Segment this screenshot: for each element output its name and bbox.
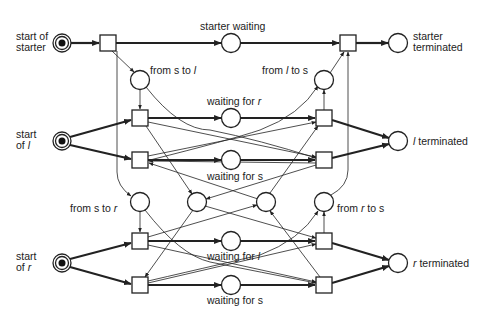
place-l-terminated xyxy=(389,132,408,151)
label-l-terminated: l terminated xyxy=(413,135,468,147)
label-waiting-for-s-bottom: waiting for s xyxy=(206,294,263,306)
place-starter-terminated xyxy=(389,34,408,53)
place-start-of-r xyxy=(53,254,71,272)
token-icon xyxy=(59,260,66,267)
place-inner-right xyxy=(257,193,276,212)
place-waiting-for-r xyxy=(222,109,241,128)
transition-l2-right xyxy=(316,152,332,168)
place-inner-left xyxy=(188,193,207,212)
place-from-s-to-r xyxy=(131,193,150,212)
transition-end-starter xyxy=(340,35,356,51)
transition-start-starter xyxy=(100,35,116,51)
petri-net-diagram: start of starter starter waiting starter… xyxy=(0,0,491,321)
place-from-l-to-s xyxy=(315,71,334,90)
transition-r2-right xyxy=(316,277,332,293)
transition-r1-left xyxy=(132,233,148,249)
transition-l1-right xyxy=(316,110,332,126)
transition-r1-right xyxy=(316,233,332,249)
label-start-of-l-2: of l xyxy=(16,139,31,151)
label-from-s-to-r: from s to r xyxy=(70,202,118,214)
label-start-of-r-2: of r xyxy=(16,261,32,273)
place-starter-waiting xyxy=(222,34,241,53)
token-icon xyxy=(59,40,66,47)
place-r-terminated xyxy=(389,254,408,273)
label-start-of-starter-2: starter xyxy=(16,41,46,53)
label-waiting-for-r: waiting for r xyxy=(206,95,262,107)
label-waiting-for-l: waiting for l xyxy=(206,250,261,262)
place-waiting-for-s-l xyxy=(222,151,241,170)
label-from-s-to-l: from s to l xyxy=(150,64,197,76)
place-from-s-to-l xyxy=(131,71,150,90)
place-waiting-for-l xyxy=(222,232,241,251)
place-from-r-to-s xyxy=(315,193,334,212)
place-start-of-starter xyxy=(53,34,71,52)
place-start-of-l xyxy=(53,132,71,150)
label-r-terminated: r terminated xyxy=(413,257,469,269)
place-waiting-for-s-r xyxy=(222,276,241,295)
label-from-r-to-s: from r to s xyxy=(337,202,384,214)
transition-l2-left xyxy=(132,152,148,168)
transition-l1-left xyxy=(132,110,148,126)
label-starter-waiting: starter waiting xyxy=(200,20,266,32)
token-icon xyxy=(59,138,66,145)
label-waiting-for-s-top: waiting for s xyxy=(206,170,263,182)
transition-r2-left xyxy=(132,277,148,293)
label-starter-terminated-2: terminated xyxy=(413,41,463,53)
label-from-l-to-s: from l to s xyxy=(262,64,308,76)
